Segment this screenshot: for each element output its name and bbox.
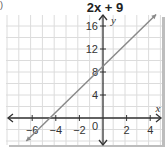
x-axis-label: x [155, 102, 161, 114]
x-tick-label: −4 [50, 124, 63, 136]
y-tick-label: 12 [86, 43, 98, 55]
origin-label: 0 [92, 120, 98, 132]
x-tick-label: 2 [124, 124, 130, 136]
x-tick-label: 4 [147, 124, 153, 136]
x-tick-label: −2 [73, 124, 86, 136]
y-axis-label: y [110, 14, 116, 26]
graph-plot: −6−4−2244812160xy [0, 0, 168, 147]
y-tick-label: 16 [86, 20, 98, 32]
y-tick-label: 4 [92, 89, 98, 101]
